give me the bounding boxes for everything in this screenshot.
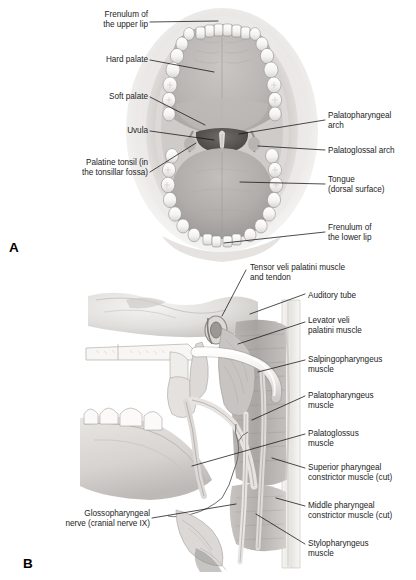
label-salpingopharyngeus-muscle: Salpingopharyngeus muscle: [308, 355, 416, 374]
label-palatopharyngeal-arch: Palatopharyngeal arch: [328, 111, 416, 130]
label-auditory-tube: Auditory tube: [308, 291, 416, 301]
panel-letter-b: B: [23, 556, 33, 571]
label-frenulum-of-the-lower-lip: Frenulum of the lower lip: [328, 223, 416, 242]
label-tensor-veli-palatini-muscle: Tensor veli palatini muscle and tendon: [250, 263, 416, 282]
anatomical-figure: Frenulum of the upper lip Hard palate So…: [0, 0, 416, 580]
label-palatoglossal-arch: Palatoglossal arch: [328, 146, 416, 156]
label-stylopharyngeus-muscle: Stylopharyngeus muscle: [308, 539, 416, 558]
label-hard-palate: Hard palate: [36, 55, 148, 65]
label-uvula: Uvula: [36, 126, 148, 136]
label-frenulum-of-the-upper-lip: Frenulum of the upper lip: [36, 10, 148, 29]
label-tongue: Tongue (dorsal surface): [328, 175, 416, 194]
label-soft-palate: Soft palate: [36, 92, 148, 102]
panel-letter-a: A: [9, 240, 19, 255]
label-superior-pharyngeal-constrictor-muscle: Superior pharyngeal constrictor muscle (…: [308, 463, 416, 482]
label-glossopharyngeal-nerve: Glossopharyngeal nerve (cranial nerve IX…: [20, 509, 150, 528]
label-palatoglossus-muscle: Palatoglossus muscle: [308, 429, 416, 448]
figure-artwork: [0, 0, 416, 580]
label-palatopharyngeus-muscle: Palatopharyngeus muscle: [308, 391, 416, 410]
label-levator-veli-palatini-muscle: Levator veli palatini muscle: [308, 316, 416, 335]
label-palatine-tonsil: Palatine tonsil (in the tonsillar fossa): [18, 158, 148, 177]
label-middle-pharyngeal-constrictor-muscle: Middle pharyngeal constrictor muscle (cu…: [308, 501, 416, 520]
panel-a-artwork: [126, 8, 325, 262]
